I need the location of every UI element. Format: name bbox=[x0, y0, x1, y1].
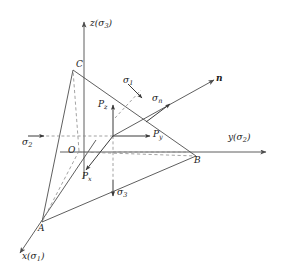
stress-label-sigma3: σ3 bbox=[117, 188, 127, 198]
axis-label-x-paren-close: ) bbox=[41, 251, 45, 261]
figure-canvas: z(σ3) y(σ2) x(σ1) O A B C σ1 σ2 σ3 σn Px… bbox=[0, 0, 290, 272]
traction-label-Px: Px bbox=[82, 172, 92, 182]
vertex-label-A: A bbox=[38, 224, 45, 233]
axis-label-z-paren-close: ) bbox=[109, 18, 113, 28]
construction-line-sigma1 bbox=[115, 90, 141, 118]
stress-label-sigma-n-subscript: n bbox=[158, 97, 162, 105]
axis-label-y: y(σ2) bbox=[228, 133, 250, 143]
vector-sigma-n bbox=[146, 104, 170, 122]
axis-line-x bbox=[20, 140, 96, 253]
stress-label-sigma2-subscript: 2 bbox=[28, 141, 32, 149]
stress-label-sigma-n: σn bbox=[152, 94, 162, 104]
axis-label-z: z(σ3) bbox=[90, 19, 112, 29]
vertex-label-O: O bbox=[68, 146, 75, 155]
stress-label-sigma1: σ1 bbox=[123, 76, 133, 86]
traction-label-Pz: Pz bbox=[98, 100, 108, 110]
stress-label-sigma3-subscript: 3 bbox=[123, 191, 127, 199]
traction-label-Py-subscript: y bbox=[159, 133, 163, 141]
normal-vector-label-n: n bbox=[216, 74, 223, 83]
vector-n-normal bbox=[113, 80, 214, 136]
edge-CB bbox=[73, 70, 196, 156]
traction-label-Py: Py bbox=[153, 130, 163, 140]
stress-label-sigma2: σ2 bbox=[22, 138, 32, 148]
traction-label-Px-subscript: x bbox=[88, 175, 92, 183]
edge-OB-hidden bbox=[79, 152, 196, 156]
vertex-label-C: C bbox=[76, 60, 83, 69]
stress-label-sigma1-subscript: 1 bbox=[129, 79, 133, 87]
traction-label-Pz-subscript: z bbox=[104, 103, 107, 111]
axis-label-y-paren-close: ) bbox=[247, 132, 251, 142]
axis-label-x: x(σ1) bbox=[22, 252, 44, 262]
vertex-label-B: B bbox=[194, 156, 201, 165]
edge-OC-hidden bbox=[73, 70, 79, 151]
